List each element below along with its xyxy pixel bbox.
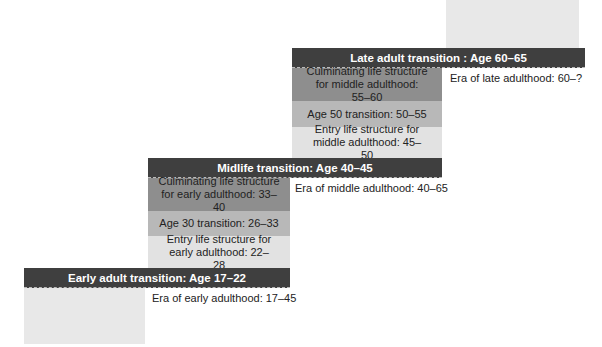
pre-adulthood-block: [24, 288, 145, 344]
late-adulthood-block: [446, 0, 579, 48]
entry-early-adulthood: Entry life structure for early adulthood…: [148, 236, 290, 268]
culminating-early-adulthood: Culminating life structure for early adu…: [148, 178, 290, 211]
era-middle-adulthood: Era of middle adulthood: 40–65: [295, 182, 448, 194]
entry-middle-adulthood: Entry life structure for middle adulthoo…: [292, 127, 442, 158]
culminating-middle-adulthood: Culminating life structure for middle ad…: [292, 68, 442, 101]
early-adult-transition-bar: Early adult transition: Age 17–22: [24, 268, 290, 288]
era-late-adulthood: Era of late adulthood: 60–?: [450, 72, 582, 84]
era-early-adulthood: Era of early adulthood: 17–45: [152, 292, 296, 304]
